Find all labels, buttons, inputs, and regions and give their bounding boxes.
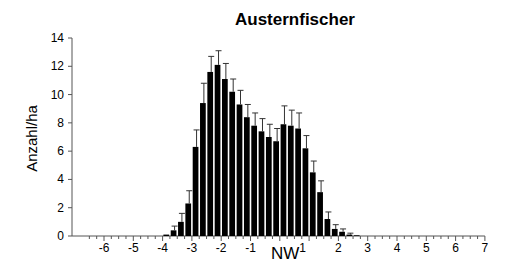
bar xyxy=(259,131,265,236)
y-tick-label: 6 xyxy=(57,144,64,158)
x-tick-label: -5 xyxy=(128,241,139,255)
x-tick-label: -3 xyxy=(187,241,198,255)
bar xyxy=(332,229,338,236)
bar xyxy=(200,103,206,236)
bar xyxy=(325,219,331,236)
bar xyxy=(339,232,345,236)
bar xyxy=(193,147,199,236)
y-tick-label: 4 xyxy=(57,172,64,186)
bar xyxy=(163,235,169,236)
y-tick-label: 10 xyxy=(51,88,65,102)
bar xyxy=(288,126,294,236)
bar xyxy=(171,230,177,236)
x-tick-label: -2 xyxy=(216,241,227,255)
y-tick-label: 14 xyxy=(51,31,65,45)
bar xyxy=(222,79,228,236)
y-tick-label: 2 xyxy=(57,201,64,215)
bar xyxy=(317,192,323,236)
x-tick-label: -1 xyxy=(245,241,256,255)
bar xyxy=(244,117,250,236)
bar xyxy=(207,72,213,236)
bar xyxy=(281,124,287,236)
x-tick-label: -6 xyxy=(99,241,110,255)
bar xyxy=(354,235,360,236)
y-tick-label: 8 xyxy=(57,116,64,130)
bar xyxy=(310,172,316,236)
x-tick-label: 6 xyxy=(452,241,459,255)
bar xyxy=(237,104,243,236)
x-tick-label: 5 xyxy=(423,241,430,255)
x-tick-label: 2 xyxy=(335,241,342,255)
bar xyxy=(215,65,221,236)
bar xyxy=(266,137,272,236)
bar xyxy=(347,235,353,236)
bar xyxy=(273,141,279,236)
x-tick-label: -4 xyxy=(157,241,168,255)
x-tick-label: 3 xyxy=(364,241,371,255)
bar xyxy=(185,203,191,236)
x-tick-label: 4 xyxy=(394,241,401,255)
bar xyxy=(229,92,235,236)
bar xyxy=(303,148,309,236)
bar xyxy=(178,222,184,236)
y-tick-label: 12 xyxy=(51,59,65,73)
bar xyxy=(295,129,301,236)
y-tick-label: 0 xyxy=(57,229,64,243)
bar xyxy=(251,126,257,236)
bar-chart: 02468101214-6-5-4-3-2-1234567 xyxy=(0,0,514,271)
x-tick-label: 7 xyxy=(482,241,489,255)
